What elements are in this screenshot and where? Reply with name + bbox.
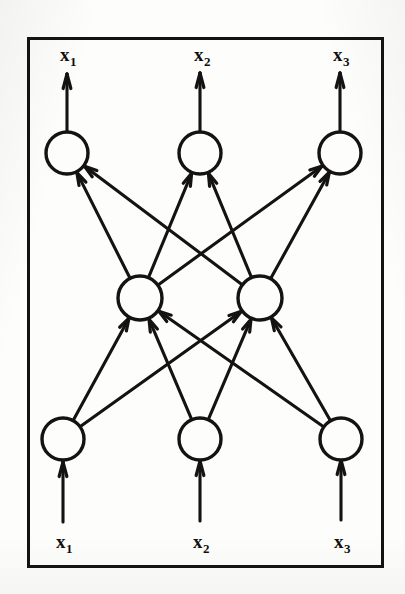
variable-name: x bbox=[334, 531, 344, 552]
edge-hid1-out3 bbox=[157, 166, 322, 286]
variable-subscript: 2 bbox=[204, 54, 211, 69]
neuron-out-1 bbox=[46, 132, 88, 174]
neural-network-diagram bbox=[0, 0, 405, 594]
figure-frame bbox=[29, 39, 383, 567]
edge-hid2-out3 bbox=[270, 172, 329, 279]
output-label-label-out-3: x3 bbox=[333, 45, 350, 68]
edge-in1-hid2 bbox=[79, 311, 241, 427]
edge-in1-hid1 bbox=[73, 318, 129, 421]
edges-input-to-hidden bbox=[73, 311, 331, 427]
neuron-hid-2 bbox=[238, 276, 282, 320]
input-layer-nodes bbox=[42, 418, 362, 460]
variable-subscript: 3 bbox=[344, 541, 351, 556]
variable-name: x bbox=[194, 44, 204, 65]
input-arrows-group bbox=[59, 460, 345, 522]
edge-hid1-out2 bbox=[148, 173, 192, 278]
hidden-layer-nodes bbox=[118, 276, 282, 320]
input-label-label-in-1: x1 bbox=[56, 532, 73, 555]
variable-subscript: 1 bbox=[70, 54, 77, 69]
neuron-in-2 bbox=[179, 418, 221, 460]
variable-subscript: 3 bbox=[343, 54, 350, 69]
input-label-label-in-3: x3 bbox=[334, 532, 351, 555]
neuron-out-2 bbox=[179, 132, 221, 174]
variable-name: x bbox=[333, 44, 343, 65]
edge-hid2-out1 bbox=[85, 166, 244, 285]
neuron-out-3 bbox=[319, 132, 361, 174]
variable-name: x bbox=[193, 531, 203, 552]
input-label-label-in-2: x2 bbox=[193, 532, 210, 555]
output-arrows-group bbox=[63, 73, 344, 132]
edge-hid1-out1-barb-1 bbox=[77, 173, 79, 186]
edge-hid1-out1 bbox=[77, 173, 131, 280]
variable-subscript: 2 bbox=[203, 541, 210, 556]
neuron-in-3 bbox=[320, 418, 362, 460]
neuron-in-1 bbox=[42, 418, 84, 460]
edges-hidden-to-output bbox=[77, 166, 329, 286]
variable-name: x bbox=[56, 531, 66, 552]
output-label-label-out-1: x1 bbox=[60, 45, 77, 68]
figure-root: x1x2x3 x1x2x3 bbox=[0, 0, 405, 594]
output-label-label-out-2: x2 bbox=[194, 45, 211, 68]
variable-subscript: 1 bbox=[66, 541, 73, 556]
neuron-hid-1 bbox=[118, 276, 162, 320]
edge-hid2-out2-barb-1 bbox=[208, 173, 209, 186]
variable-name: x bbox=[60, 44, 70, 65]
edge-in2-hid1 bbox=[149, 319, 192, 420]
edge-in2-hid1-barb-1 bbox=[149, 319, 150, 332]
edge-in3-hid2 bbox=[271, 318, 331, 422]
